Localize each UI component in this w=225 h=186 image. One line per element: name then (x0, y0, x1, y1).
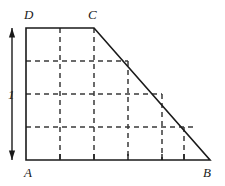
vertex-label-a: A (24, 166, 32, 179)
vertical-grid-lines (60, 28, 184, 160)
vertex-label-d: D (24, 8, 33, 21)
vertex-label-c: C (88, 8, 97, 21)
horizontal-grid-lines (26, 61, 196, 127)
dimension-arrowhead-up (9, 28, 15, 38)
dimension-arrowhead-down (9, 151, 15, 161)
geometry-figure: D C A B 1 (0, 0, 225, 186)
figure-canvas (0, 0, 225, 186)
dimension-label: 1 (8, 88, 15, 101)
baseline-ticks (60, 154, 184, 160)
vertex-label-b: B (203, 166, 211, 179)
